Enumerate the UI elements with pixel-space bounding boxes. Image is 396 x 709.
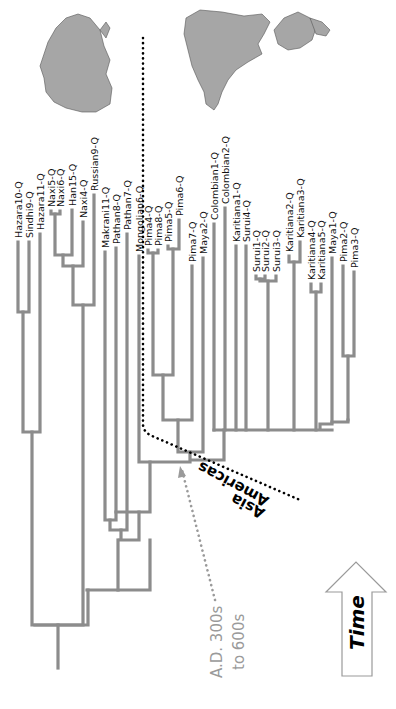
leaf-label: Pima7-Q bbox=[187, 221, 198, 262]
leaf-label: Sindhi9-Q bbox=[24, 191, 35, 238]
leaf-label: Naxi6-Q bbox=[55, 169, 66, 208]
leaf-label: Hazara11-Q bbox=[35, 173, 46, 230]
leaf-label: Karitiana2-Q bbox=[284, 192, 295, 252]
leaf-label: Russian9-Q bbox=[89, 137, 100, 191]
tree-branches bbox=[18, 195, 354, 668]
leaf-label: Colombian2-Q bbox=[220, 136, 231, 204]
leaf-label: Pima6-Q bbox=[174, 175, 185, 216]
leaf-label: Hazara10-Q bbox=[13, 181, 24, 238]
date-label-line1: A.D. 300s bbox=[208, 606, 226, 678]
leaf-label: Naxi4-Q bbox=[78, 180, 89, 219]
leaf-label: Han15-Q bbox=[67, 164, 78, 206]
leaf-label: Karitiana3-Q bbox=[295, 178, 306, 238]
date-pointer-line bbox=[182, 470, 215, 600]
leaf-label: Pima3-Q bbox=[349, 227, 360, 268]
asia-map bbox=[40, 14, 112, 112]
leaf-label: Colombian1-Q bbox=[209, 152, 220, 220]
leaf-label: Surui2-Q bbox=[260, 230, 271, 272]
leaf-label: Surui3-Q bbox=[271, 230, 282, 272]
leaf-label: Pathan8-Q bbox=[111, 194, 122, 244]
phylogeny-figure: Hazara10-QSindhi9-QHazara11-QNaxi5-QNaxi… bbox=[0, 0, 396, 709]
leaf-label: Pima2-Q bbox=[338, 221, 349, 262]
leaf-label: Pima5-Q bbox=[163, 201, 174, 242]
leaf-label: Karitiana5-Q bbox=[316, 220, 327, 280]
leaf-label: Makrani11-Q bbox=[100, 187, 111, 248]
americas-map bbox=[184, 10, 330, 110]
date-arrowhead-icon bbox=[178, 466, 186, 478]
date-label-line2: to 600s bbox=[230, 614, 248, 670]
leaf-label: Pathan7-Q bbox=[122, 180, 133, 230]
leaf-label: Maya2-Q bbox=[198, 211, 209, 254]
leaf-label: Maya1-Q bbox=[327, 211, 338, 254]
time-label: Time bbox=[345, 595, 369, 650]
